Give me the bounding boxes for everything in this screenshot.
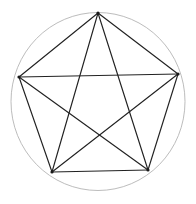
vertex-top	[96, 11, 99, 14]
vertex-bottom-right	[146, 168, 149, 171]
diagram-background	[0, 0, 196, 204]
geometry-diagram	[0, 0, 196, 204]
vertex-bottom-left	[50, 170, 53, 173]
vertex-right	[176, 72, 179, 75]
vertex-left	[17, 75, 20, 78]
figure-container	[0, 0, 196, 204]
